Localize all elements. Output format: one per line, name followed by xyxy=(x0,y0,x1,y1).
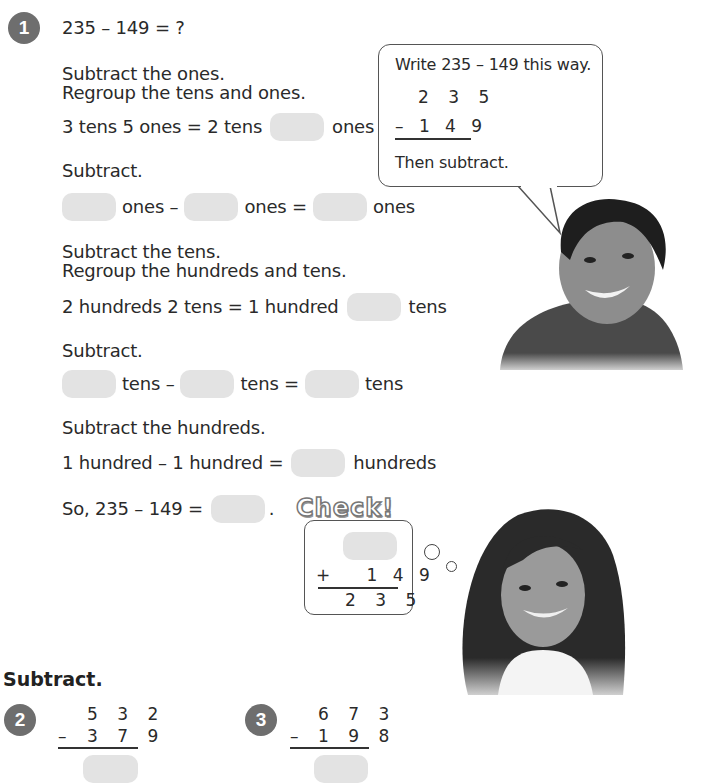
hundreds-subtraction-row: 1 hundred – 1 hundred = hundreds xyxy=(62,449,436,477)
problem-bottom-number: 1 9 8 xyxy=(318,726,396,746)
check-rule xyxy=(318,587,398,589)
answer-blank[interactable] xyxy=(314,755,368,783)
row-text: ones xyxy=(332,116,374,138)
problem-top-number: 6 7 3 xyxy=(318,704,396,724)
answer-blank[interactable] xyxy=(313,193,367,221)
tens-subtraction-row: tens – tens = tens xyxy=(62,370,403,398)
problem-top-number: 5 3 2 xyxy=(87,704,165,724)
answer-blank[interactable] xyxy=(62,370,116,398)
badge-label: 3 xyxy=(256,709,267,731)
problem-bottom-number: 3 7 9 xyxy=(87,726,165,746)
step-instruction: Subtract the ones. xyxy=(62,64,225,83)
row-text: ones – xyxy=(122,196,178,218)
row-text: tens xyxy=(365,373,403,395)
boy-illustration xyxy=(495,190,685,370)
step-instruction: Subtract. xyxy=(62,160,143,182)
ones-subtraction-row: ones – ones = ones xyxy=(62,193,415,221)
problem-equation: 235 – 149 = ? xyxy=(62,17,185,39)
row-text: tens = xyxy=(240,373,299,395)
step-instruction: Subtract the tens. xyxy=(62,242,221,261)
row-text: hundreds xyxy=(353,452,436,474)
check-title: Check! xyxy=(296,494,394,522)
thought-bubble-large xyxy=(424,544,440,560)
step-instruction: Subtract the hundreds. xyxy=(62,417,266,439)
bubble-tail-joint xyxy=(521,184,557,188)
check-addend: + 1 4 9 xyxy=(316,565,435,585)
answer-blank[interactable] xyxy=(270,113,324,141)
section-heading: Subtract. xyxy=(3,668,103,690)
problem-operator: – xyxy=(58,726,74,746)
problem-operator: – xyxy=(290,726,306,746)
conclusion-row: So, 235 – 149 = . xyxy=(62,495,274,523)
bubble-bottom-number: – 1 4 9 xyxy=(395,116,487,136)
check-sum: 2 3 5 xyxy=(345,590,423,610)
row-text: 1 hundred – 1 hundred = xyxy=(62,452,283,474)
boy-photo xyxy=(495,190,685,370)
row-text: tens – xyxy=(122,373,174,395)
answer-blank[interactable] xyxy=(211,495,265,523)
answer-blank[interactable] xyxy=(62,193,116,221)
row-text: ones xyxy=(373,196,415,218)
answer-blank[interactable] xyxy=(347,293,401,321)
row-text: 2 hundreds 2 tens = 1 hundred xyxy=(62,296,339,318)
row-text: tens xyxy=(409,296,447,318)
girl-photo xyxy=(448,500,638,695)
row-text: . xyxy=(269,498,275,520)
step-instruction: Subtract. xyxy=(62,340,143,362)
problem-rule xyxy=(290,747,369,749)
problem-number-badge: 1 xyxy=(8,12,40,44)
answer-blank[interactable] xyxy=(180,370,234,398)
row-text: So, 235 – 149 = xyxy=(62,498,203,520)
row-text: 3 tens 5 ones = 2 tens xyxy=(62,116,262,138)
row-text: ones = xyxy=(244,196,306,218)
bubble-rule xyxy=(395,138,471,140)
answer-blank[interactable] xyxy=(184,193,238,221)
step-instruction: Regroup the hundreds and tens. xyxy=(62,261,347,280)
problem-number-badge: 3 xyxy=(245,704,277,736)
answer-blank[interactable] xyxy=(291,449,345,477)
step-instruction: Regroup the tens and ones. xyxy=(62,83,306,102)
bubble-text: Then subtract. xyxy=(395,152,509,174)
answer-blank[interactable] xyxy=(305,370,359,398)
bubble-top-number: 2 3 5 xyxy=(418,87,496,107)
problem-rule xyxy=(58,747,138,749)
answer-blank[interactable] xyxy=(83,755,138,783)
regroup-tens-row: 2 hundreds 2 tens = 1 hundred tens xyxy=(62,293,447,321)
girl-illustration xyxy=(448,500,638,695)
problem-number-badge: 2 xyxy=(4,704,36,736)
answer-blank[interactable] xyxy=(343,532,397,560)
bubble-text: Write 235 – 149 this way. xyxy=(395,54,591,76)
regroup-ones-row: 3 tens 5 ones = 2 tens ones xyxy=(62,113,374,141)
badge-label: 2 xyxy=(15,709,26,731)
badge-label: 1 xyxy=(19,17,30,39)
